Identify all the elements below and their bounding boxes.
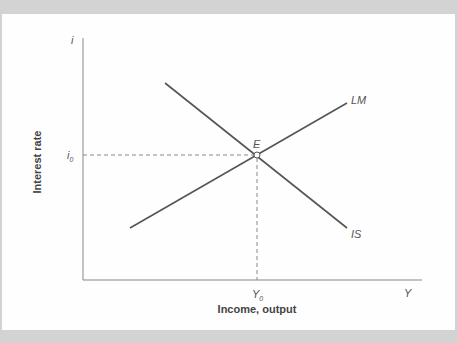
lm-curve — [130, 103, 347, 228]
y-axis-symbol: i — [71, 34, 74, 46]
equilibrium-point — [254, 152, 260, 158]
x-axis-symbol: Y — [404, 287, 412, 299]
y0-label: Y0 — [252, 288, 263, 302]
lm-label: LM — [351, 94, 367, 106]
x-axis-title: Income, output — [218, 303, 297, 315]
equilibrium-label: E — [253, 138, 261, 150]
y-axis-title: Interest rate — [31, 131, 43, 194]
is-lm-diagram: i i0 E LM IS Y0 Y Income, output Interes… — [0, 0, 458, 343]
i0-label: i0 — [67, 149, 73, 163]
is-label: IS — [351, 228, 362, 240]
